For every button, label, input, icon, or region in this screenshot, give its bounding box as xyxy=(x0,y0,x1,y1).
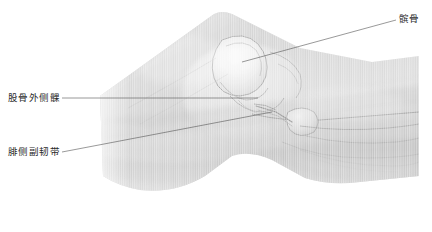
illustration-canvas: 髌骨 股骨外侧髁 腓侧副韧带 xyxy=(0,0,432,232)
label-patella: 髌骨 xyxy=(399,13,420,24)
label-lateral-femoral-condyle: 股骨外侧髁 xyxy=(8,92,60,103)
scanline-texture xyxy=(90,0,432,232)
limb-body xyxy=(90,0,432,232)
label-fibular-collateral-ligament: 腓侧副韧带 xyxy=(8,146,60,157)
anatomy-drawing xyxy=(0,0,432,232)
